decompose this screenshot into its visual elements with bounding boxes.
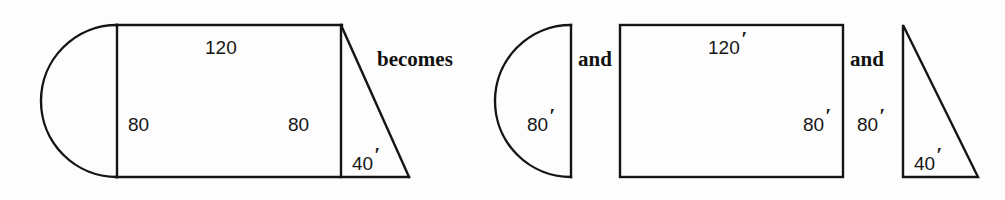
composite-triangle-base-label: 40	[352, 153, 373, 174]
figure-container: 120 80 80 40 ′ becomes 80 ′ and 120 ′ 80…	[0, 0, 1005, 200]
triangle-base-label: 40	[914, 153, 935, 174]
composite-left-height-label: 80	[128, 114, 149, 135]
composite-right-height-label: 80	[288, 114, 309, 135]
triangle-height-label: 80	[857, 114, 878, 135]
triangle-base-prime: ′	[936, 143, 942, 167]
semicircle-radius-prime: ′	[549, 104, 555, 128]
composite-triangle-base-prime: ′	[374, 143, 380, 167]
rectangle-top-prime: ′	[741, 27, 747, 51]
connector-and-second: and	[850, 47, 884, 71]
geometry-figure: 120 80 80 40 ′ becomes 80 ′ and 120 ′ 80…	[0, 0, 1005, 200]
connector-becomes: becomes	[377, 47, 453, 71]
rectangle-side-label: 80	[803, 114, 824, 135]
composite-top-label: 120	[205, 37, 237, 58]
rectangle-top-label: 120	[708, 37, 740, 58]
semicircle-radius-label: 80	[527, 114, 548, 135]
rectangle-side-prime: ′	[825, 104, 831, 128]
part-semicircle	[495, 25, 571, 177]
semicircle-arc	[495, 25, 571, 177]
triangle-height-prime: ′	[879, 104, 885, 128]
connector-and-first: and	[578, 47, 612, 71]
composite-semicircle-arc	[41, 25, 117, 177]
